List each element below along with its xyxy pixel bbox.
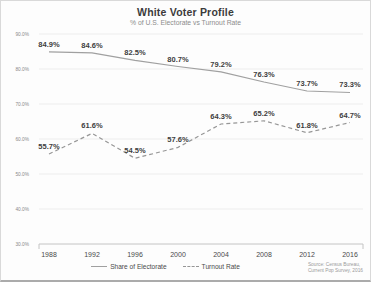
chart-frame: White Voter Profile % of U.S. Electorate… [0,0,371,282]
dashed-line-swatch-icon [183,266,199,267]
source-note: Source: Census Bureau, Current Pop Surve… [308,262,363,274]
y-axis-tick-label: 80.0% [15,67,29,72]
y-axis-tick-label: 40.0% [15,207,29,212]
x-axis-tick-label: 2000 [170,251,186,258]
x-axis-tick-label: 1992 [84,251,100,258]
data-label: 76.3% [253,70,275,79]
source-line-2: Current Pop Survey, 2016 [308,268,363,274]
data-label: 79.2% [210,60,232,69]
x-axis-tick-label: 1988 [41,251,57,258]
legend-item-share: Share of Electorate [91,263,166,270]
data-label: 61.8% [296,121,318,130]
data-label: 82.5% [124,48,146,57]
data-label: 64.7% [339,111,361,120]
data-label: 55.7% [38,142,60,151]
data-label: 57.6% [167,135,189,144]
y-axis-tick-label: 50.0% [15,172,29,177]
data-label: 65.2% [253,109,275,118]
legend: Share of Electorate Turnout Rate [0,263,350,270]
x-axis-tick-label: 2008 [256,251,272,258]
legend-label-turnout: Turnout Rate [202,263,240,270]
y-axis-tick-label: 70.0% [15,102,29,107]
x-axis-tick-label: 2004 [213,251,229,258]
legend-item-turnout: Turnout Rate [183,263,240,270]
data-label: 73.3% [339,80,361,89]
y-axis-tick-label: 90.0% [15,32,29,37]
data-label: 64.3% [210,112,232,121]
x-axis-tick-label: 2016 [342,251,358,258]
y-axis-tick-label: 30.0% [15,242,29,247]
data-label: 84.9% [38,40,60,49]
x-axis-tick-label: 2012 [299,251,315,258]
data-label: 54.5% [124,146,146,155]
solid-line-swatch-icon [91,266,107,267]
y-axis-tick-label: 60.0% [15,137,29,142]
x-axis-tick-label: 1996 [127,251,143,258]
legend-label-share: Share of Electorate [110,263,166,270]
data-label: 61.6% [81,121,103,130]
data-label: 80.7% [167,55,189,64]
data-label: 84.6% [81,41,103,50]
plot-area: 90.0%80.0%70.0%60.0%50.0%40.0%30.0%19881… [1,1,371,282]
data-label: 73.7% [296,79,318,88]
